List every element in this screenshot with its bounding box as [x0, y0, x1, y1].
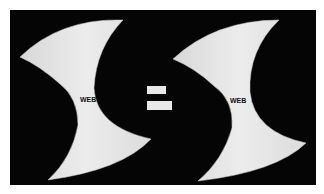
illusion-figure: WEB WEB: [0, 0, 324, 194]
right-shape-label: WEB: [230, 97, 246, 104]
left-web-shape: WEB: [20, 20, 151, 180]
right-web-shape: WEB: [173, 20, 306, 181]
left-shape-label: WEB: [80, 96, 96, 103]
equals-sign: [147, 86, 172, 110]
